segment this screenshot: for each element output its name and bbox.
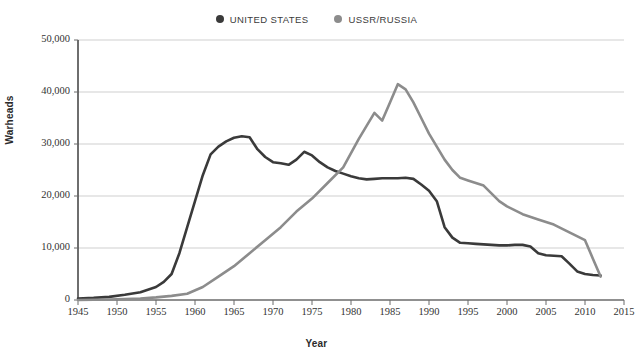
y-tick-label: 20,000 <box>10 189 70 200</box>
x-tick-label: 1955 <box>136 306 176 317</box>
x-axis-title: Year <box>0 338 633 349</box>
y-tick-label: 30,000 <box>10 137 70 148</box>
x-tick-label: 1990 <box>409 306 449 317</box>
x-tick-label: 1995 <box>448 306 488 317</box>
x-tick-label: 1960 <box>175 306 215 317</box>
x-tick-label: 1970 <box>253 306 293 317</box>
x-tick-label: 2010 <box>565 306 605 317</box>
x-tick-label: 2015 <box>604 306 639 317</box>
y-axis-title: Warheads <box>4 80 15 160</box>
x-tick-label: 2005 <box>526 306 566 317</box>
x-tick-label: 1950 <box>97 306 137 317</box>
x-tick-label: 2000 <box>487 306 527 317</box>
y-tick-label: 50,000 <box>10 33 70 44</box>
series-line-1 <box>78 84 601 300</box>
y-tick-label: 40,000 <box>10 85 70 96</box>
x-tick-label: 1980 <box>331 306 371 317</box>
x-tick-label: 1975 <box>292 306 332 317</box>
y-tick-label: 10,000 <box>10 241 70 252</box>
series-line-0 <box>78 136 601 298</box>
x-tick-label: 1985 <box>370 306 410 317</box>
y-tick-label: 0 <box>10 293 70 304</box>
x-tick-label: 1945 <box>58 306 98 317</box>
x-tick-label: 1965 <box>214 306 254 317</box>
